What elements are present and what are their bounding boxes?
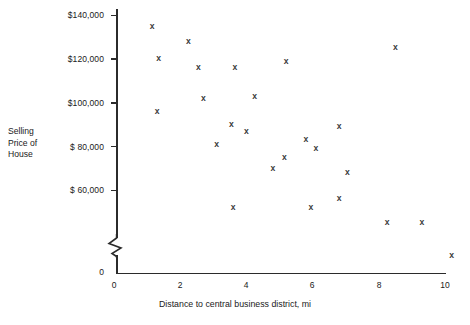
- data-point: x: [304, 135, 309, 144]
- data-point: x: [419, 218, 424, 227]
- y-tick-label-120000: $120,000: [68, 54, 104, 64]
- y-axis-title-line-3: House: [8, 149, 78, 161]
- y-axis-title: Selling Price of House: [8, 126, 78, 161]
- data-point: x: [449, 251, 454, 260]
- axis-break-icon: [106, 234, 128, 258]
- plot-area: $140,000 $120,000 $100,000 $ 80,000 $ 60…: [0, 0, 470, 325]
- data-point: x: [231, 203, 236, 212]
- data-point: x: [244, 126, 249, 135]
- x-tick-label-10: 10: [435, 280, 455, 290]
- y-tick-label-0: 0: [99, 267, 104, 277]
- data-point: x: [156, 54, 161, 63]
- data-point: x: [314, 144, 319, 153]
- data-point: x: [196, 63, 201, 72]
- y-tick-80000: [111, 146, 117, 148]
- data-point: x: [186, 37, 191, 46]
- data-point: x: [270, 163, 275, 172]
- y-tick-140000: [111, 15, 117, 17]
- y-tick-120000: [111, 58, 117, 60]
- x-tick-label-0: 0: [104, 280, 124, 290]
- data-point: x: [337, 194, 342, 203]
- y-tick-label-60000: $ 60,000: [70, 185, 104, 195]
- data-point: x: [201, 93, 206, 102]
- data-point: x: [345, 168, 350, 177]
- x-tick-label-6: 6: [302, 280, 322, 290]
- x-axis-line: [116, 273, 446, 275]
- x-tick-label-4: 4: [236, 280, 256, 290]
- data-point: x: [155, 107, 160, 116]
- data-point: x: [214, 139, 219, 148]
- y-axis-line: [116, 9, 118, 238]
- y-tick-100000: [111, 102, 117, 104]
- x-tick-label-2: 2: [170, 280, 190, 290]
- y-axis-title-line-2: Price of: [8, 138, 78, 150]
- y-tick-60000: [111, 190, 117, 192]
- data-point: x: [282, 152, 287, 161]
- data-point: x: [150, 21, 155, 30]
- data-point: x: [284, 56, 289, 65]
- data-point: x: [229, 120, 234, 129]
- data-point: x: [385, 218, 390, 227]
- data-point: x: [232, 63, 237, 72]
- scatter-plot-figure: $140,000 $120,000 $100,000 $ 80,000 $ 60…: [0, 0, 470, 325]
- y-tick-label-100000: $100,000: [68, 98, 104, 108]
- x-tick-label-8: 8: [369, 280, 389, 290]
- x-axis-title: Distance to central business district, m…: [0, 299, 470, 309]
- y-axis-title-line-1: Selling: [8, 126, 78, 138]
- data-point: x: [309, 203, 314, 212]
- y-tick-label-140000: $140,000: [68, 10, 104, 20]
- data-point: x: [337, 122, 342, 131]
- data-point: x: [252, 91, 257, 100]
- data-point: x: [393, 43, 398, 52]
